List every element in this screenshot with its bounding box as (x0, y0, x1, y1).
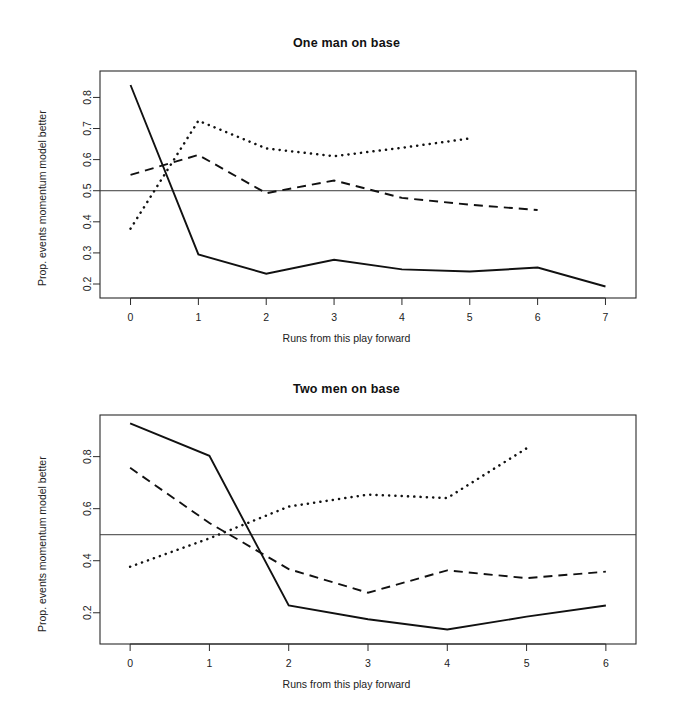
y-tick-label: 0.5 (81, 183, 93, 198)
x-tick-label: 2 (286, 657, 292, 669)
panel-two-plot-area: 0.20.40.60.80123456 (0, 356, 693, 696)
y-tick-label: 0.7 (81, 121, 93, 136)
y-tick-label: 0.6 (81, 501, 93, 516)
series-line-solid (130, 423, 606, 629)
y-tick-label: 0.3 (81, 245, 93, 260)
x-tick-label: 3 (331, 311, 337, 323)
x-tick-label: 5 (524, 657, 530, 669)
panel-one-plot-area: 0.20.30.40.50.60.70.801234567 (0, 0, 693, 345)
x-tick-label: 4 (399, 311, 405, 323)
plot-box (100, 415, 636, 644)
y-tick-label: 0.8 (81, 90, 93, 105)
x-tick-label: 1 (206, 657, 212, 669)
x-tick-label: 2 (263, 311, 269, 323)
panel-two-x-axis-label: Runs from this play forward (0, 678, 693, 690)
chart-panel-two-men-on-base: Two men on base Prop. events momentum mo… (0, 356, 693, 713)
x-tick-label: 0 (128, 311, 134, 323)
x-tick-label: 7 (603, 311, 609, 323)
y-tick-label: 0.2 (81, 605, 93, 620)
y-tick-label: 0.8 (81, 449, 93, 464)
y-tick-label: 0.4 (81, 214, 93, 229)
x-tick-label: 4 (444, 657, 450, 669)
x-tick-label: 0 (127, 657, 133, 669)
panel-one-x-axis-label: Runs from this play forward (0, 332, 693, 344)
x-tick-label: 3 (365, 657, 371, 669)
y-tick-label: 0.6 (81, 152, 93, 167)
x-tick-label: 5 (467, 311, 473, 323)
series-line-dashed (130, 468, 606, 593)
y-tick-label: 0.2 (81, 277, 93, 292)
series-line-dotted (130, 448, 526, 566)
y-tick-label: 0.4 (81, 553, 93, 568)
x-tick-label: 6 (603, 657, 609, 669)
chart-panel-one-man-on-base: One man on base Prop. events momentum mo… (0, 0, 693, 370)
series-line-dashed (131, 155, 538, 210)
series-line-solid (131, 85, 606, 287)
x-tick-label: 6 (535, 311, 541, 323)
x-tick-label: 1 (195, 311, 201, 323)
